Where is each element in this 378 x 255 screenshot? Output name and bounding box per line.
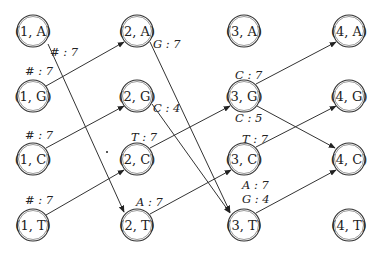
node-label-3C: (3, C) — [226, 152, 263, 167]
edges — [46, 42, 336, 215]
edge-label-1C-2G: # : 7 — [25, 128, 54, 142]
node-label-4G: (4, G) — [330, 89, 367, 104]
edge-label-1A-2T: # : 7 — [50, 45, 79, 59]
edge-label-2G-3T: C : 4 — [153, 101, 180, 115]
node-label-2G: (2, G) — [118, 89, 155, 104]
node-1C[interactable]: (1, C) — [15, 143, 52, 175]
edge-label-3T-4C-a: A : 7 — [241, 178, 269, 192]
node-1G[interactable]: (1, G) — [14, 80, 51, 112]
node-label-3G: (3, G) — [225, 89, 262, 104]
edge-1A-2T — [48, 44, 124, 212]
node-4C[interactable]: (4, C) — [331, 143, 368, 175]
graph-canvas: # : 7 # : 7 # : 7 # : 7 G : 7 C : 4 T : … — [0, 0, 378, 255]
edge-labels: # : 7 # : 7 # : 7 # : 7 G : 7 C : 4 T : … — [25, 37, 270, 209]
edge-label-2T-3C: A : 7 — [135, 195, 163, 209]
node-label-1A: (1, A) — [15, 24, 51, 39]
node-label-2A: (2, A) — [119, 24, 155, 39]
node-1A[interactable]: (1, A) — [15, 15, 51, 47]
node-label-4A: (4, A) — [331, 24, 367, 39]
edge-2G-3T — [152, 104, 230, 213]
node-label-3T: (3, T) — [226, 218, 261, 233]
node-label-4C: (4, C) — [331, 152, 368, 167]
edge-label-2C-3G: T : 7 — [131, 130, 158, 144]
stray-dot — [106, 151, 108, 153]
node-2T[interactable]: (2, T) — [119, 209, 154, 241]
edge-1T-2C — [46, 170, 124, 215]
node-3G[interactable]: (3, G) — [225, 80, 262, 112]
node-4A[interactable]: (4, A) — [331, 15, 367, 47]
edge-label-3G-4A: C : 7 — [235, 68, 263, 82]
node-label-1C: (1, C) — [15, 152, 52, 167]
edge-label-3G-4C: C : 5 — [235, 111, 262, 125]
node-3A[interactable]: (3, A) — [226, 15, 262, 47]
edge-label-2A-3T: G : 7 — [153, 37, 181, 51]
node-label-4T: (4, T) — [331, 218, 366, 233]
edge-3G-4A — [256, 42, 336, 84]
node-3T[interactable]: (3, T) — [226, 209, 261, 241]
node-2C[interactable]: (2, C) — [119, 143, 156, 175]
node-label-3A: (3, A) — [226, 24, 262, 39]
node-label-2T: (2, T) — [119, 218, 154, 233]
edge-label-1T-2C: # : 7 — [25, 193, 54, 207]
node-label-1G: (1, G) — [14, 89, 51, 104]
edge-label-1G-2A: # : 7 — [25, 64, 54, 78]
edge-1C-2G — [46, 106, 124, 148]
node-1T[interactable]: (1, T) — [15, 209, 50, 241]
node-4G[interactable]: (4, G) — [330, 80, 367, 112]
node-label-2C: (2, C) — [119, 152, 156, 167]
node-3C[interactable]: (3, C) — [226, 143, 263, 175]
node-4T[interactable]: (4, T) — [331, 209, 366, 241]
node-label-1T: (1, T) — [15, 218, 50, 233]
node-2G[interactable]: (2, G) — [118, 80, 155, 112]
edge-label-3T-4C-b: G : 4 — [242, 192, 270, 206]
